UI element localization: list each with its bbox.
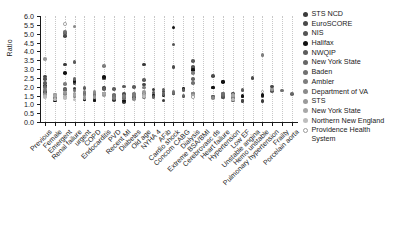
legend-item[interactable]: Halifax [303,39,408,48]
legend-item[interactable]: STS [303,97,408,106]
legend-swatch-icon [303,31,308,36]
legend-swatch-icon [303,99,308,104]
legend-item[interactable]: Providence Health System [303,126,408,143]
legend-label: NIS [312,29,324,38]
legend-label: Department of VA [312,88,369,97]
scatter-chart-figure: Ratio 0.00.51.01.52.02.53.03.54.04.55.05… [0,0,408,228]
x-axis-tick-mark [173,123,174,126]
x-axis-tick-mark [134,123,135,126]
x-axis-tick-mark [114,123,115,126]
legend-swatch-icon [303,41,308,46]
legend-item[interactable]: NWQIP [303,49,408,58]
x-axis-tick-mark [65,123,66,126]
legend-swatch-icon [303,50,308,55]
legend-swatch-icon [303,60,308,65]
x-axis-line [40,122,298,123]
x-axis-tick-mark [45,123,46,126]
legend-swatch-icon [303,108,308,113]
x-axis-tick-mark [164,123,165,126]
legend-label: STS [312,97,326,106]
legend-item[interactable]: Ambler [303,78,408,87]
legend-swatch-icon [303,89,308,94]
legend-swatch-icon [303,12,308,17]
legend-item[interactable]: Northern New England [303,117,408,126]
x-axis-tick-mark [104,123,105,126]
legend-swatch-icon [303,70,308,75]
x-axis-tick-mark [193,123,194,126]
x-axis-tick-mark [253,123,254,126]
x-axis-tick-mark [154,123,155,126]
legend-label: New York State [312,58,361,67]
legend-swatch-icon [303,118,308,123]
x-axis-tick-mark [282,123,283,126]
x-axis-tick-mark [292,123,293,126]
x-axis-tick-mark [183,123,184,126]
x-axis-tick-mark [203,123,204,126]
x-axis-tick-mark [124,123,125,126]
x-axis-tick-mark [272,123,273,126]
legend-item[interactable]: New York State [303,107,408,116]
x-axis-tick-mark [75,123,76,126]
legend-item[interactable]: STS NCD [303,10,408,19]
x-axis-tick-mark [243,123,244,126]
legend-label: Providence Health System [312,126,371,143]
x-axis-tick-mark [213,123,214,126]
legend-label: Halifax [312,39,334,48]
legend-label: EuroSCORE [312,20,353,29]
y-axis-line [40,16,41,123]
x-axis-tick-mark [84,123,85,126]
legend-label: Ambler [312,78,335,87]
legend-swatch-icon [303,21,308,26]
legend-swatch-icon [303,128,308,133]
legend-swatch-icon [303,79,308,84]
chart-legend: STS NCDEuroSCORENISHalifaxNWQIPNew York … [303,10,408,145]
x-axis-tick-mark [262,123,263,126]
x-axis-tick-mark [144,123,145,126]
legend-label: STS NCD [312,10,344,19]
legend-item[interactable]: Baden [303,68,408,77]
legend-item[interactable]: EuroSCORE [303,20,408,29]
x-axis-tick-mark [223,123,224,126]
legend-label: NWQIP [312,49,336,58]
legend-label: Baden [312,68,333,77]
legend-label: Northern New England [312,117,385,126]
x-axis-tick-mark [94,123,95,126]
legend-label: New York State [312,107,361,116]
legend-item[interactable]: Department of VA [303,88,408,97]
legend-item[interactable]: New York State [303,58,408,67]
legend-item[interactable]: NIS [303,29,408,38]
x-axis-tick-mark [233,123,234,126]
x-axis-tick-mark [55,123,56,126]
